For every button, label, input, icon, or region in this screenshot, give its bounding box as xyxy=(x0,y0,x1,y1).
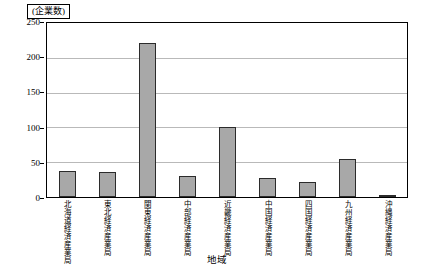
x-tick-label: 関東経済産業局 xyxy=(143,200,151,256)
bar[interactable] xyxy=(259,178,276,197)
y-tick-mark xyxy=(40,22,44,23)
bar-slot xyxy=(127,23,167,197)
y-tick-mark xyxy=(40,57,44,58)
bar[interactable] xyxy=(219,127,236,197)
bar-slot xyxy=(247,23,287,197)
y-tick-label: 200 xyxy=(27,53,41,62)
y-tick-mark xyxy=(40,92,44,93)
x-label-slot: 四国経済産業局 xyxy=(287,200,327,252)
x-tick-label: 九州経済産業局 xyxy=(344,200,352,256)
x-label-slot: 九州経済産業局 xyxy=(328,200,368,252)
x-axis-labels: 北海道経済産業局東北経済産業局関東経済産業局中部経済産業局近畿経済産業局中国経済… xyxy=(46,200,408,252)
bar-chart: (企業数) 250 200 150 100 50 0 北海道経済産業局東北経済産… xyxy=(0,0,433,267)
x-label-slot: 近畿経済産業局 xyxy=(207,200,247,252)
x-label-slot: 沖縄経済産業局 xyxy=(368,200,408,252)
bar-slot xyxy=(327,23,367,197)
y-tick-label: 250 xyxy=(27,18,41,27)
y-tick-mark xyxy=(40,128,44,129)
y-axis: 250 200 150 100 50 0 xyxy=(0,22,44,198)
bar-slot xyxy=(367,23,407,197)
bar-slot xyxy=(167,23,207,197)
x-label-slot: 中国経済産業局 xyxy=(247,200,287,252)
x-tick-label: 近畿経済産業局 xyxy=(223,200,231,256)
x-tick-label: 中部経済産業局 xyxy=(183,200,191,256)
plot-area xyxy=(46,22,408,198)
x-tick-label: 四国経済産業局 xyxy=(304,200,312,256)
y-tick-label: 50 xyxy=(31,158,40,167)
y-tick-mark xyxy=(40,198,44,199)
bar[interactable] xyxy=(339,159,356,197)
x-label-slot: 東北経済産業局 xyxy=(86,200,126,252)
bar[interactable] xyxy=(299,182,316,197)
bar-slot xyxy=(87,23,127,197)
bar-slot xyxy=(47,23,87,197)
x-label-slot: 中部経済産業局 xyxy=(167,200,207,252)
bar[interactable] xyxy=(379,195,396,197)
bar[interactable] xyxy=(139,43,156,197)
y-tick-label: 100 xyxy=(27,123,41,132)
bar[interactable] xyxy=(59,171,76,197)
x-tick-label: 東北経済産業局 xyxy=(102,200,110,256)
y-tick-mark xyxy=(40,163,44,164)
x-tick-label: 中国経済産業局 xyxy=(263,200,271,256)
x-label-slot: 北海道経済産業局 xyxy=(46,200,86,252)
x-label-slot: 関東経済産業局 xyxy=(126,200,166,252)
bar-slot xyxy=(287,23,327,197)
y-tick-label: 150 xyxy=(27,88,41,97)
bar[interactable] xyxy=(99,172,116,197)
bar-slot xyxy=(207,23,247,197)
bar[interactable] xyxy=(179,176,196,197)
x-axis-title: 地域 xyxy=(0,252,433,266)
bar-series xyxy=(47,23,407,197)
x-tick-label: 沖縄経済産業局 xyxy=(384,200,392,256)
